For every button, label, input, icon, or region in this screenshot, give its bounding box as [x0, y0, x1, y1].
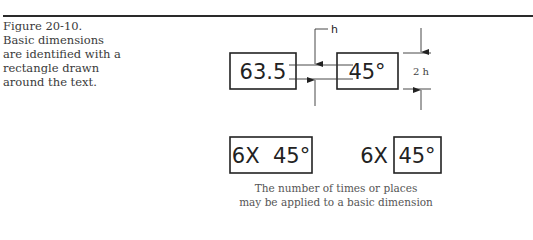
- box2-text: 45°: [348, 60, 385, 84]
- diagram-note: The number of times or places may be app…: [230, 182, 442, 209]
- right-prefix-text: 6X: [360, 144, 388, 168]
- box1-text: 63.5: [240, 60, 287, 84]
- 2h-label: 2 h: [413, 66, 430, 77]
- left-box-text: 6X 45°: [232, 144, 310, 168]
- basic-dimension-box-45: 45°: [337, 53, 398, 89]
- h-dimension: h: [315, 23, 338, 106]
- 6x-with-boxed-45: 6X 45°: [360, 137, 441, 173]
- right-box-text: 45°: [398, 144, 435, 168]
- boxed-6x-45: 6X 45°: [230, 137, 312, 173]
- note-line: The number of times or places: [230, 182, 442, 196]
- text-height-extension-lines: [289, 65, 353, 79]
- note-line: may be applied to a basic dimension: [230, 196, 442, 210]
- basic-dimension-box-63-5: 63.5: [230, 53, 296, 89]
- h-label: h: [331, 23, 338, 36]
- 2h-dimension: 2 h: [403, 28, 431, 110]
